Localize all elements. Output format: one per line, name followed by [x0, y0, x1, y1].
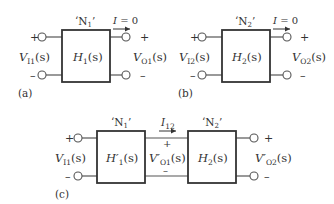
network-label-n1: ‘N1’	[75, 15, 95, 29]
input-plus-sign: +	[30, 31, 39, 44]
output-terminal-minus	[250, 172, 258, 180]
output-voltage-label: VO2(s)	[292, 50, 326, 66]
output-terminal-plus	[122, 33, 130, 41]
output-terminal-minus	[122, 71, 130, 79]
current-label: I = 0	[272, 15, 298, 26]
panel-tag-b: (b)	[178, 87, 193, 99]
output-plus-sign: +	[264, 132, 273, 145]
panel-c: + – + – + – ‘N1’ ‘N2’ I12 H′1(s) H2(s) V…	[55, 116, 292, 200]
panel-tag-a: (a)	[18, 87, 32, 99]
block-label-h2: H2(s)	[197, 151, 228, 167]
input-minus-sign: –	[65, 170, 71, 183]
mid-minus-sign: –	[163, 165, 168, 176]
output-terminal-plus	[250, 134, 258, 142]
block-label-h1: H1(s)	[72, 50, 103, 66]
output-terminal-minus	[283, 71, 291, 79]
current-label: I = 0	[112, 15, 138, 26]
output-minus-sign: –	[264, 170, 270, 183]
input-voltage-label: VI2(s)	[179, 50, 210, 66]
panel-tag-c: (c)	[55, 188, 69, 200]
block-label-h2: H2(s)	[231, 50, 262, 66]
output-plus-sign: +	[140, 31, 149, 44]
intermediate-voltage-label: V′O1(s)	[149, 151, 186, 167]
mid-plus-sign: +	[163, 138, 171, 149]
network-label-n1: ‘N1’	[111, 116, 131, 130]
input-terminal-minus	[74, 172, 82, 180]
input-voltage-label: VI1(s)	[19, 50, 50, 66]
current-label-i12: I12	[160, 116, 175, 131]
input-terminal-plus	[74, 134, 82, 142]
input-minus-sign: –	[30, 69, 36, 82]
input-minus-sign: –	[190, 69, 196, 82]
input-plus-sign: +	[65, 132, 74, 145]
network-label-n2: ‘N2’	[235, 15, 255, 29]
output-voltage-label: V′O2(s)	[255, 151, 292, 167]
input-terminal-minus	[38, 71, 46, 79]
input-voltage-label: VI1(s)	[55, 151, 86, 167]
network-label-n2: ‘N2’	[202, 116, 222, 130]
output-voltage-label: VO1(s)	[133, 50, 167, 66]
output-plus-sign: +	[300, 31, 309, 44]
input-plus-sign: +	[190, 31, 199, 44]
output-minus-sign: –	[140, 69, 146, 82]
output-minus-sign: –	[300, 69, 306, 82]
panel-b: + – + – ‘N2’ I = 0 H2(s) VI2(s) VO2(s) (…	[178, 15, 326, 99]
panel-a: + – + – ‘N1’ I = 0 H1(s) VI1(s) VO1(s) (…	[18, 15, 167, 99]
two-port-cascade-diagram: + – + – ‘N1’ I = 0 H1(s) VI1(s) VO1(s) (…	[0, 0, 334, 204]
input-terminal-minus	[198, 71, 206, 79]
output-terminal-plus	[283, 33, 291, 41]
